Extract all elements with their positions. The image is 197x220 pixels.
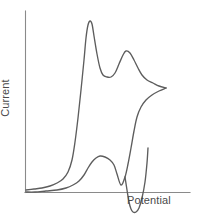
reverse-scan-trace [26,88,166,192]
x-axis-label: Potential [127,195,171,206]
cyclic-voltammogram-figure: Potential Current [0,0,197,220]
forward-scan-trace [26,21,166,190]
chart-canvas [0,0,197,220]
y-axis-label: Current [0,70,11,126]
